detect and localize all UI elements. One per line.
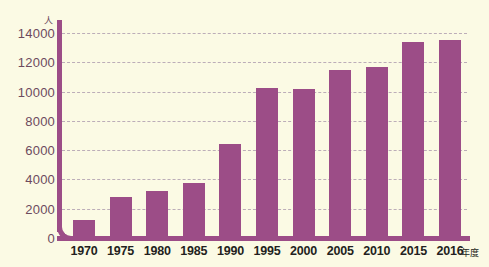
y-tick-label: 2000 xyxy=(3,201,55,216)
gridline xyxy=(62,33,467,34)
bar-1975 xyxy=(110,197,132,238)
y-axis-line xyxy=(57,20,62,232)
y-tick-label: 0 xyxy=(3,231,55,246)
bar-1995 xyxy=(256,88,278,238)
x-axis-line xyxy=(57,236,470,241)
plot-area xyxy=(62,18,470,238)
bar-2016 xyxy=(439,40,461,238)
y-tick-label: 8000 xyxy=(3,113,55,128)
bar-chart: 人 02000400060008000100001200014000 19701… xyxy=(0,0,489,267)
bar-2000 xyxy=(293,89,315,238)
y-tick-label: 12000 xyxy=(3,55,55,70)
y-tick-label: 6000 xyxy=(3,143,55,158)
bar-1990 xyxy=(219,144,241,238)
bar-2010 xyxy=(366,67,388,238)
bar-2005 xyxy=(329,70,351,238)
y-tick-label: 10000 xyxy=(3,84,55,99)
bar-1980 xyxy=(146,191,168,238)
bar-2015 xyxy=(402,42,424,238)
y-axis-tick-labels: 02000400060008000100001200014000 xyxy=(0,0,55,267)
x-axis-unit-label: 年度 xyxy=(461,246,479,259)
y-tick-label: 14000 xyxy=(3,26,55,41)
bar-1985 xyxy=(183,183,205,238)
y-tick-label: 4000 xyxy=(3,172,55,187)
